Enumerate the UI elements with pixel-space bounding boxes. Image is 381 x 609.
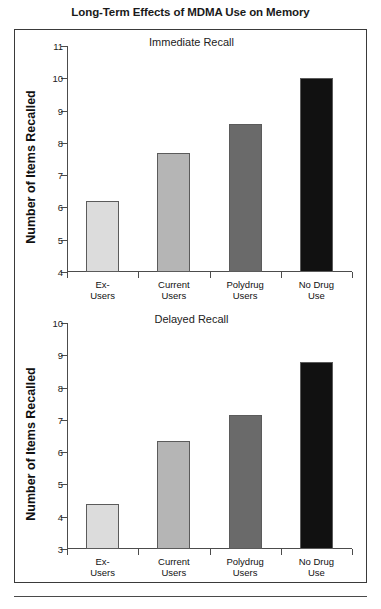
bar xyxy=(86,201,119,272)
bar xyxy=(86,504,119,549)
y-tick-label: 10 xyxy=(52,73,63,84)
y-tick-label: 4 xyxy=(58,267,63,278)
chart-panel-immediate-recall: Number of Items Recalled Immediate Recal… xyxy=(15,30,368,307)
x-tick-mark xyxy=(281,549,282,555)
y-tick-label: 8 xyxy=(58,137,63,148)
x-tick-mark xyxy=(67,272,68,278)
y-tick-label: 7 xyxy=(58,414,63,425)
x-tick-mark xyxy=(352,272,353,278)
x-axis-category-label: Ex- Users xyxy=(67,280,138,301)
y-tick-label: 6 xyxy=(58,447,63,458)
x-axis-category-label: No Drug Use xyxy=(281,280,352,301)
y-axis-label: Number of Items Recalled xyxy=(24,354,38,534)
y-tick-label: 9 xyxy=(58,105,63,116)
x-axis-category-label: Polydrug Users xyxy=(210,557,281,578)
y-axis-line xyxy=(67,323,68,549)
x-tick-mark xyxy=(210,549,211,555)
y-tick-label: 5 xyxy=(58,479,63,490)
x-axis-category-label: Polydrug Users xyxy=(210,280,281,301)
x-tick-mark xyxy=(210,272,211,278)
bar xyxy=(300,362,333,549)
x-tick-mark xyxy=(352,549,353,555)
y-tick-label: 4 xyxy=(58,511,63,522)
page-title: Long-Term Effects of MDMA Use on Memory xyxy=(0,6,381,18)
bar xyxy=(229,415,262,549)
x-axis-category-label: No Drug Use xyxy=(281,557,352,578)
x-tick-mark xyxy=(138,272,139,278)
x-tick-mark xyxy=(281,272,282,278)
y-tick-label: 10 xyxy=(52,318,63,329)
y-tick-label: 9 xyxy=(58,350,63,361)
x-axis-category-label: Current Users xyxy=(138,557,209,578)
figure-frame: Number of Items Recalled Immediate Recal… xyxy=(14,29,367,583)
plot-area: 4567891011Ex- UsersCurrent UsersPolydrug… xyxy=(67,46,352,272)
x-tick-mark xyxy=(138,549,139,555)
bar xyxy=(157,441,190,549)
y-tick-label: 6 xyxy=(58,202,63,213)
bar xyxy=(229,124,262,273)
bar xyxy=(157,153,190,272)
y-tick-label: 3 xyxy=(58,544,63,555)
y-tick-label: 8 xyxy=(58,382,63,393)
x-axis-category-label: Current Users xyxy=(138,280,209,301)
x-tick-mark xyxy=(67,549,68,555)
bottom-divider xyxy=(14,596,367,597)
y-axis-line xyxy=(67,46,68,272)
x-axis-category-label: Ex- Users xyxy=(67,557,138,578)
bar xyxy=(300,78,333,272)
y-tick-label: 11 xyxy=(53,41,63,52)
chart-panel-delayed-recall: Number of Items Recalled Delayed Recall … xyxy=(15,307,368,584)
y-tick-label: 5 xyxy=(58,234,63,245)
y-tick-label: 7 xyxy=(58,170,63,181)
plot-area: 345678910Ex- UsersCurrent UsersPolydrug … xyxy=(67,323,352,549)
y-axis-label: Number of Items Recalled xyxy=(24,77,38,257)
